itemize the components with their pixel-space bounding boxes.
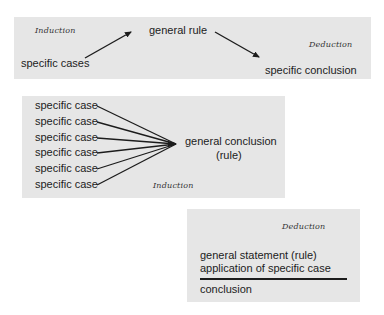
premise-application: application of specific case	[200, 262, 331, 275]
deduction-label: Deduction	[282, 222, 325, 231]
conclusion-divider	[200, 278, 347, 280]
premise-general-statement: general statement (rule)	[200, 249, 317, 262]
conclusion-text: conclusion	[200, 283, 252, 296]
